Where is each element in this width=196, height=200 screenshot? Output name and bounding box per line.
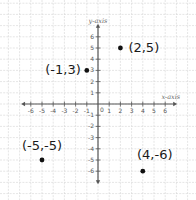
x-tick-label: 5 [152, 107, 156, 114]
y-tick-label: 5 [90, 44, 94, 51]
y-tick-label: 4 [90, 55, 94, 62]
x-tick-label: -6 [28, 107, 34, 114]
x-tick-label: 2 [118, 107, 122, 114]
x-tick-label: -5 [39, 107, 45, 114]
y-tick-label: -3 [88, 134, 94, 141]
coordinate-plane: y-axisx-axis -6-5-4-3-2-1123456654321-1-… [0, 0, 196, 200]
y-tick-label: -5 [88, 156, 94, 163]
y-tick-label: 2 [90, 78, 94, 85]
point-label: (-1,3) [45, 62, 81, 77]
x-axis-label: x-axis [161, 93, 180, 101]
x-tick-label: 6 [163, 107, 167, 114]
x-axis-arrow-left-icon [21, 102, 25, 106]
y-tick-label: -2 [88, 122, 94, 129]
y-tick-label: 3 [90, 66, 94, 73]
point-marker [118, 46, 123, 51]
y-tick-label: -1 [88, 111, 94, 118]
y-tick-label: -6 [88, 167, 94, 174]
x-tick-label: 1 [107, 107, 111, 114]
y-tick-label: 6 [90, 33, 94, 40]
origin-label: 0 [100, 106, 104, 113]
point-marker [84, 68, 89, 73]
point-label: (-5,-5) [22, 138, 62, 153]
x-tick-label: -4 [50, 107, 56, 114]
y-axis-label: y-axis [88, 17, 108, 25]
x-tick-label: 3 [130, 107, 134, 114]
point-label: (4,-6) [137, 147, 173, 162]
x-tick-label: 4 [141, 107, 145, 114]
point-label: (2,5) [128, 40, 159, 55]
point-marker [40, 158, 45, 163]
y-tick-label: 1 [90, 89, 94, 96]
y-tick-label: -4 [88, 145, 94, 152]
point-marker [140, 169, 145, 174]
x-tick-label: -3 [61, 107, 67, 114]
x-tick-label: -2 [73, 107, 79, 114]
